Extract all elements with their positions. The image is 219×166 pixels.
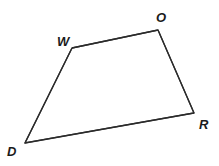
vertex-label-r: R xyxy=(199,118,208,131)
edge-r-d xyxy=(25,113,194,143)
vertex-label-w: W xyxy=(57,35,69,48)
edge-d-w xyxy=(25,48,72,143)
edge-w-o xyxy=(72,30,158,48)
vertex-label-d: D xyxy=(7,145,16,158)
geometry-figure: W O R D xyxy=(0,0,219,166)
edge-o-r xyxy=(158,30,194,113)
quadrilateral-drawing xyxy=(0,0,219,166)
vertex-label-o: O xyxy=(156,11,166,24)
quadrilateral-shape xyxy=(25,30,194,143)
